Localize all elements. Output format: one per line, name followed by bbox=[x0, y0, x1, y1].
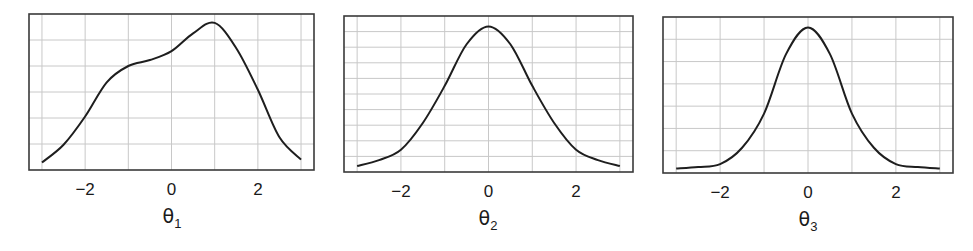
x-axis-label-theta3: θ3 bbox=[799, 210, 818, 233]
x-tick-label: 0 bbox=[803, 184, 812, 201]
plot-panel-theta3: θ3 −202 bbox=[0, 0, 973, 251]
x-tick-label: 2 bbox=[891, 184, 900, 201]
x-tick-label: −2 bbox=[710, 184, 729, 201]
plot-area-theta3 bbox=[0, 0, 973, 251]
